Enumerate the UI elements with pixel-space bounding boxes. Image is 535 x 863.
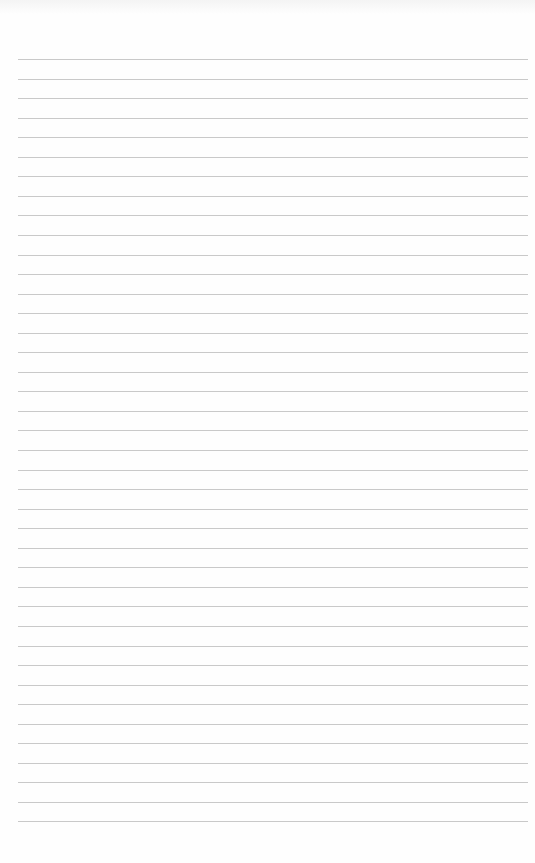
ruled-line xyxy=(18,98,528,99)
ruled-line xyxy=(18,763,528,764)
ruled-line xyxy=(18,430,528,431)
lined-paper-page xyxy=(0,0,535,863)
ruled-line xyxy=(18,391,528,392)
ruled-line xyxy=(18,743,528,744)
ruled-line xyxy=(18,821,528,822)
ruled-line xyxy=(18,802,528,803)
ruled-line xyxy=(18,567,528,568)
ruled-line xyxy=(18,352,528,353)
ruled-line xyxy=(18,646,528,647)
ruled-line xyxy=(18,372,528,373)
ruled-line xyxy=(18,450,528,451)
ruled-line xyxy=(18,274,528,275)
ruled-line xyxy=(18,294,528,295)
ruled-line xyxy=(18,587,528,588)
ruled-line xyxy=(18,509,528,510)
ruled-line xyxy=(18,79,528,80)
ruled-line xyxy=(18,333,528,334)
ruled-line xyxy=(18,724,528,725)
ruled-line xyxy=(18,626,528,627)
ruled-line xyxy=(18,470,528,471)
ruled-line xyxy=(18,313,528,314)
ruled-line xyxy=(18,782,528,783)
ruled-line xyxy=(18,685,528,686)
ruled-line xyxy=(18,489,528,490)
top-edge-shadow xyxy=(0,0,535,14)
ruled-line xyxy=(18,176,528,177)
ruled-line xyxy=(18,255,528,256)
ruled-line xyxy=(18,606,528,607)
ruled-line xyxy=(18,59,528,60)
ruled-line xyxy=(18,157,528,158)
ruled-line xyxy=(18,235,528,236)
ruled-line xyxy=(18,118,528,119)
ruled-line xyxy=(18,528,528,529)
ruled-line xyxy=(18,548,528,549)
ruled-line xyxy=(18,215,528,216)
ruled-line xyxy=(18,704,528,705)
ruled-line xyxy=(18,411,528,412)
ruled-line xyxy=(18,665,528,666)
ruled-line xyxy=(18,137,528,138)
ruled-line xyxy=(18,196,528,197)
